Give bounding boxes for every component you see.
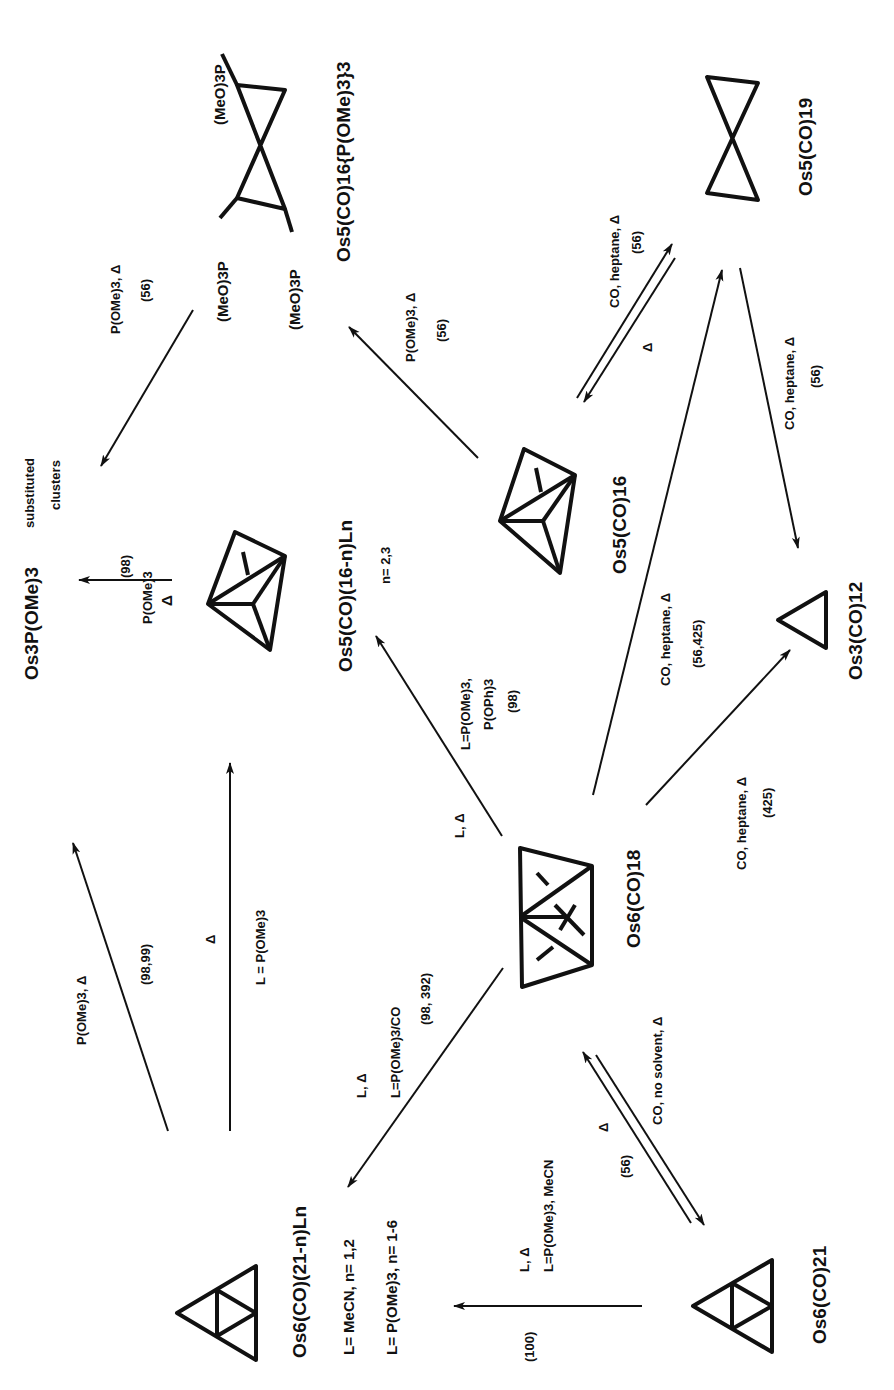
ref-r6: (98) (118, 555, 133, 578)
cond-r8: CO, heptane, Δ (658, 593, 673, 686)
cond-r0-a: L, Δ (354, 1073, 369, 1098)
label-os6-21sub-note1: L= MeCN, n= 1,2 (340, 1239, 357, 1355)
arrow-os5-16-to-os5-19 (577, 244, 672, 398)
cond-r5-a: L, Δ (452, 813, 467, 838)
label-os6-21sub: Os6(CO)(21-n)Ln (289, 1206, 310, 1358)
ref-r8: (56,425) (690, 620, 705, 668)
ref-r3: (98,99) (138, 944, 153, 985)
cond-r5-c: P(OPh)3 (481, 679, 496, 730)
os5-16pome-shape (220, 54, 292, 232)
ref-r5: (98) (505, 690, 520, 713)
cond-r1: CO, no solvent, Δ (650, 1017, 665, 1125)
label-os3-sub: Os3P(OMe)3 (21, 567, 42, 680)
labels: Os6(CO)18 Os6(CO)21 Os6(CO)(21-n)Ln L= M… (21, 61, 866, 1362)
os5-16-shape (500, 449, 575, 573)
label-os5-16ln-note: n= 2,3 (378, 547, 393, 584)
label-os3-sub-suffix2: clusters (48, 460, 63, 510)
ref-r10: (56) (808, 365, 823, 388)
ref-r9: (56) (629, 231, 644, 254)
label-ligand-2: (MeO)3P (214, 261, 231, 322)
cond-r4-b: L = P(OMe)3 (253, 910, 268, 985)
cond-r3: P(OMe)3, Δ (74, 976, 89, 1045)
os3-12-shape (778, 592, 826, 648)
cond-r6-a: P(OMe)3 (140, 571, 155, 624)
os6-18-shape (520, 848, 592, 987)
cond-r11: P(OMe)3, Δ (403, 293, 418, 362)
ref-r11: (56) (434, 319, 449, 342)
label-os5-16pome: Os5(CO)16{P(OMe)3}3 (333, 61, 354, 262)
label-os5-16ln: Os5(CO)(16-n)Ln (335, 520, 356, 672)
label-os6-21: Os6(CO)21 (809, 1245, 830, 1344)
cond-r9: CO, heptane, Δ (607, 215, 622, 308)
ref-r1: (56) (618, 1155, 633, 1178)
label-os6-21sub-note2: L= P(OMe)3, n= 1-6 (383, 1220, 400, 1355)
cond-r1-reverse: Δ (596, 1123, 611, 1132)
osmium-cluster-reaction-scheme: Os6(CO)18 Os6(CO)21 Os6(CO)(21-n)Ln L= M… (0, 0, 894, 1390)
os6-21sub-shape (177, 1266, 256, 1360)
cond-r2-b: L=P(OMe)3, MeCN (541, 1160, 556, 1272)
cond-r6-b: Δ (158, 595, 175, 606)
label-ligand-3: (MeO)3P (286, 269, 303, 330)
arrow-os5-19-to-os5-16 (584, 258, 675, 402)
ref-r7: (425) (760, 788, 775, 818)
cond-r0-b: L=P(OMe)3/CO (388, 1007, 403, 1098)
os5-19-shape (707, 77, 758, 200)
cond-r12: P(OMe)3, Δ (108, 265, 123, 334)
label-os5-19: Os5(CO)19 (795, 98, 816, 196)
os6-21-shape (693, 1260, 772, 1352)
cond-r10: CO, heptane, Δ (782, 337, 797, 430)
cond-r9-reverse: Δ (640, 343, 655, 352)
label-os3-sub-suffix1: substituted (22, 458, 37, 528)
ref-r2: (100) (522, 1332, 537, 1362)
cond-r7: CO, heptane, Δ (734, 777, 749, 870)
ref-r12: (56) (138, 279, 153, 302)
cond-r4-a: Δ (203, 935, 218, 944)
cond-r2-a: L, Δ (517, 1247, 532, 1272)
reaction-arrows (73, 244, 798, 1306)
label-os3-12: Os3(CO)12 (845, 582, 866, 680)
label-os6-18: Os6(CO)18 (623, 850, 644, 948)
label-os5-16: Os5(CO)16 (609, 476, 630, 574)
arrow-os6-21-to-os6-18 (583, 1052, 691, 1223)
arrow-os6-18-to-os5-16ln (376, 636, 502, 836)
ref-r0: (98, 392) (418, 973, 433, 1025)
label-ligand-1: (MeO)3P (211, 64, 228, 125)
os5-16ln-shape (208, 532, 285, 650)
cond-r5-b: L=P(OMe)3, (458, 678, 473, 750)
